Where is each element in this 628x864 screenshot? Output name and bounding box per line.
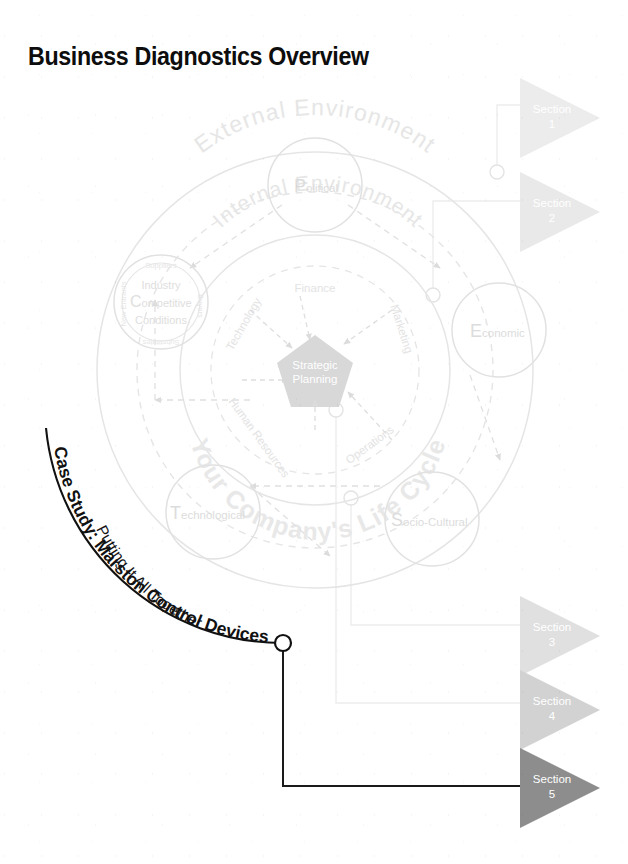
section-2-label-line1: Section xyxy=(533,197,571,209)
pentagon-shape xyxy=(277,335,353,407)
section-tab-2[interactable]: Section 2 xyxy=(520,172,600,252)
section-tab-3[interactable]: Section 3 xyxy=(520,596,600,676)
industry-force-suppliers: Suppliers xyxy=(145,261,177,270)
section-5-triangle[interactable] xyxy=(520,748,600,828)
industry-line2-rest: ompetitive xyxy=(142,297,192,309)
svg-text:Socio-Cultural: Socio-Cultural xyxy=(391,510,468,530)
force-socio-rest: ocio-Cultural xyxy=(403,516,468,528)
section-3-triangle[interactable] xyxy=(520,596,600,676)
section-tabs[interactable]: Section 1 Section 2 Section 3 Section 4 xyxy=(520,78,600,828)
case-study-outer-text: Case Study: Marston Control Devices xyxy=(50,445,270,647)
diagram-svg: External Environment Internal Environmen… xyxy=(0,0,628,864)
core-label-line2: Planning xyxy=(293,373,338,385)
slide-canvas: Business Diagnostics Overview xyxy=(0,0,628,864)
force-economic-rest: conomic xyxy=(482,327,525,339)
label-marketing: Marketing xyxy=(388,303,415,355)
force-socio-cultural: Socio-Cultural xyxy=(385,472,479,566)
strategic-planning-core: Strategic Planning xyxy=(277,335,353,430)
industry-force-substitutes: Substitutes xyxy=(142,338,179,347)
force-political-initial: P xyxy=(294,176,306,196)
section-tab-1[interactable]: Section 1 xyxy=(520,78,600,158)
force-economic: Economic xyxy=(452,283,546,377)
industry-force-buyers: Buyers xyxy=(196,294,205,318)
label-lifecycle: Your Company's Life Cycle xyxy=(185,435,450,546)
section-2-triangle[interactable] xyxy=(520,172,600,252)
connector-node-5 xyxy=(275,635,291,651)
section-5-label-line2: 5 xyxy=(549,788,555,800)
case-study-group: Case Study: Marston Control Devices Putt… xyxy=(46,428,560,786)
connector-node-1 xyxy=(490,165,504,179)
force-economic-initial: E xyxy=(470,321,482,341)
section-1-label-line2: 1 xyxy=(549,118,555,130)
arrow-marketing-to-core xyxy=(344,310,392,344)
force-technological-rest: echnological xyxy=(181,509,245,521)
label-finance: Finance xyxy=(295,282,336,294)
section-3-label-line2: 3 xyxy=(549,636,555,648)
arrow-economic-down xyxy=(470,375,500,460)
section-4-label-line2: 4 xyxy=(549,710,556,722)
svg-text:Economic: Economic xyxy=(470,321,525,341)
force-industry-competitive-conditions: Industry Competitive Conditions Supplier… xyxy=(114,255,208,349)
case-study-inner-text: Putting It All Together xyxy=(93,522,204,631)
label-technology: Technology xyxy=(224,296,264,353)
label-external-environment: External Environment xyxy=(189,94,440,158)
industry-force-new-entrants: New Entrants xyxy=(119,281,128,326)
arrow-finance-to-core xyxy=(300,296,310,340)
connector-section-5 xyxy=(283,643,560,786)
industry-initial: C xyxy=(130,293,142,310)
core-label-line1: Strategic xyxy=(292,359,338,371)
section-tab-5[interactable]: Section 5 xyxy=(520,748,600,828)
section-3-label-line1: Section xyxy=(533,621,571,633)
industry-line1: Industry xyxy=(141,279,181,291)
section-5-label-line1: Section xyxy=(533,773,571,785)
section-1-label-line1: Section xyxy=(533,103,571,115)
force-technological-initial: T xyxy=(170,503,181,523)
section-4-triangle[interactable] xyxy=(520,670,600,750)
arrow-tech-to-core xyxy=(250,310,292,348)
label-internal-environment: Internal Environment xyxy=(208,171,428,231)
industry-line3: Conditions xyxy=(135,314,187,326)
force-political-rest: olitical xyxy=(306,182,338,194)
svg-text:Competitive: Competitive xyxy=(130,293,192,310)
section-1-triangle[interactable] xyxy=(520,78,600,158)
section-tab-4[interactable]: Section 4 xyxy=(520,670,600,750)
section-4-label-line1: Section xyxy=(533,695,571,707)
section-2-label-line2: 2 xyxy=(549,212,555,224)
force-socio-initial: S xyxy=(391,510,403,530)
